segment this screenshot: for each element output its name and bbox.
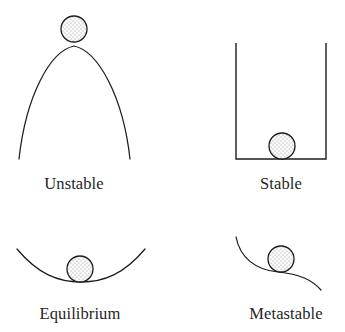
panel-label-metastable: Metastable [249,304,322,323]
panel-equilibrium: Equilibrium [17,249,145,323]
dome-curve [19,46,130,159]
diagram-canvas: Unstable Stable Equilibrium Metastable [0,0,345,332]
ball-in-container-icon [269,133,295,159]
panel-stable: Stable [236,43,326,193]
equilibrium-states-figure: Unstable Stable Equilibrium Metastable [0,0,345,332]
panel-label-unstable: Unstable [44,174,103,193]
ball-on-ledge-icon [268,246,294,272]
ball-on-dome-icon [61,16,87,42]
panel-unstable: Unstable [19,16,130,193]
panel-label-equilibrium: Equilibrium [40,304,121,323]
panel-metastable: Metastable [236,237,323,323]
panel-label-stable: Stable [260,174,302,193]
ball-in-shallow-bowl-icon [67,256,93,282]
